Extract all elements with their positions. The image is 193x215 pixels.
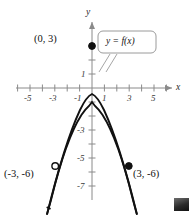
- x-tick-label-5: 5: [151, 94, 156, 103]
- left-endpoint-label: (-3, -6): [4, 169, 34, 180]
- x-tick-label-3: 3: [127, 94, 132, 103]
- vertex-point-marker: [89, 43, 96, 50]
- corner-swatch-icon: [174, 198, 189, 211]
- graph-figure: -5 -3 -1 1 3 5 1 -3 -5 -7 x y (0, 3) (-3…: [0, 0, 193, 215]
- coordinate-plot: [0, 0, 193, 215]
- x-tick-label--3: -3: [49, 94, 57, 103]
- y-axis-label: y: [86, 8, 90, 18]
- x-tick-label--1: -1: [74, 94, 82, 103]
- callout-label: y = f(x): [106, 37, 135, 47]
- x-tick-label--5: -5: [24, 94, 32, 103]
- x-axis-label: x: [176, 83, 180, 93]
- y-tick-label--3: -3: [77, 126, 85, 135]
- x-tick-label-1: 1: [102, 94, 107, 103]
- right-endpoint-label: (3, -6): [133, 169, 159, 180]
- y-axis-arrow: [89, 22, 95, 29]
- y-tick-label--7: -7: [77, 182, 85, 191]
- right-endpoint-filled-marker: [125, 163, 132, 170]
- callout-leader-lines: [99, 54, 117, 72]
- y-tick-label--5: -5: [77, 154, 85, 163]
- vertex-point-label: (0, 3): [34, 34, 57, 45]
- y-tick-label-1: 1: [81, 70, 86, 79]
- left-endpoint-open-marker: [52, 163, 59, 170]
